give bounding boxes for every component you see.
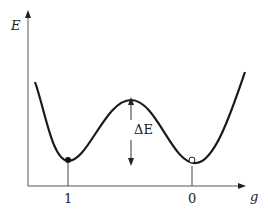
filled-marker [65,157,71,163]
x-axis-label: g [250,190,258,203]
diagram-canvas [0,0,268,211]
barrier-label: ΔE [134,123,153,136]
energy-curve [35,72,245,163]
y-axis-label: E [11,19,21,32]
double-well-diagram: E g ΔE 1 0 [0,0,268,211]
tick-label-0: 0 [188,192,196,205]
open-marker [189,157,195,163]
tick-label-1: 1 [64,192,72,205]
